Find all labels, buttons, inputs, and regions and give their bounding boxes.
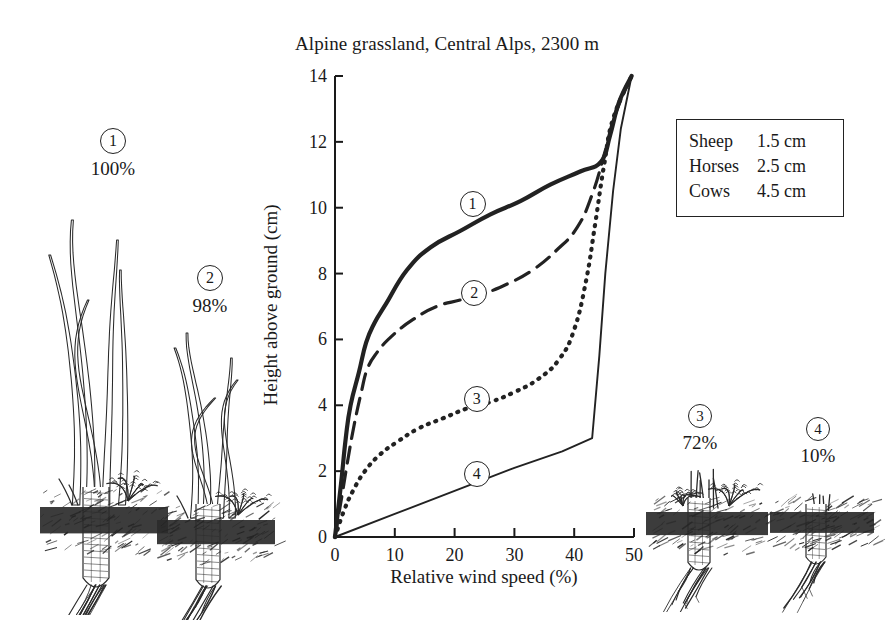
- y-tick-label: 14: [293, 66, 327, 87]
- plant-3-drawing: [645, 462, 785, 612]
- y-tick-label: 12: [293, 131, 327, 152]
- y-tick-label: 8: [293, 263, 327, 284]
- plant-2-drawing: [140, 330, 290, 620]
- plant-4-drawing: [770, 478, 885, 613]
- y-tick-label: 6: [293, 329, 327, 350]
- plant-2-percent: 98%: [193, 295, 228, 317]
- legend-height: 2.5 cm: [757, 157, 806, 175]
- y-tick-label: 2: [293, 461, 327, 482]
- legend-animal: Cows: [689, 182, 757, 200]
- x-tick-label: 20: [435, 545, 475, 566]
- legend-animal: Sheep: [689, 132, 757, 150]
- legend-row: Sheep 1.5 cm: [689, 132, 843, 150]
- x-tick-label: 30: [494, 545, 534, 566]
- x-tick-label: 10: [375, 545, 415, 566]
- grazing-height-legend: Sheep 1.5 cm Horses 2.5 cm Cows 4.5 cm: [676, 119, 844, 217]
- legend-row: Cows 4.5 cm: [689, 182, 843, 200]
- plant-1-number: 1: [100, 128, 126, 154]
- plant-1-percent: 100%: [91, 158, 135, 180]
- y-tick-label: 4: [293, 395, 327, 416]
- x-tick-label: 0: [315, 545, 355, 566]
- plant-4-percent: 10%: [801, 445, 836, 467]
- y-tick-label: 10: [293, 197, 327, 218]
- legend-animal: Horses: [689, 157, 757, 175]
- plant-3-percent: 72%: [683, 432, 718, 454]
- legend-row: Horses 2.5 cm: [689, 157, 843, 175]
- curve-callout-1: 1: [460, 191, 486, 217]
- curve-callout-4: 4: [464, 461, 490, 487]
- x-tick-label: 40: [554, 545, 594, 566]
- plant-3-number: 3: [688, 404, 712, 428]
- curve-callout-3: 3: [464, 386, 490, 412]
- figure-canvas: Alpine grassland, Central Alps, 2300 m R…: [0, 0, 894, 636]
- plant-4-number: 4: [806, 417, 830, 441]
- x-axis-title: Relative wind speed (%): [390, 566, 577, 588]
- legend-height: 4.5 cm: [757, 182, 806, 200]
- legend-height: 1.5 cm: [757, 132, 806, 150]
- plant-2-number: 2: [197, 265, 223, 291]
